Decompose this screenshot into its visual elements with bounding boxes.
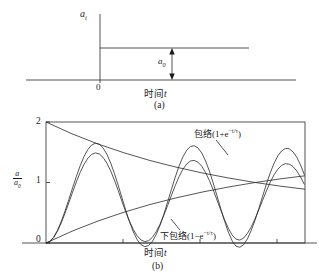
panel-b-curves xyxy=(46,122,305,247)
panel-b-ytick-label-1: 1 xyxy=(36,176,41,186)
panel-a-amplitude-label: a0 xyxy=(158,57,166,68)
upper-envelope-annotation: 包络(1+e−t/τ) xyxy=(194,128,241,139)
panel-a-origin-tick-label: 0 xyxy=(96,83,101,92)
lower-envelope-leader-line xyxy=(171,219,180,230)
panel-a-x-axis-label: 时间t xyxy=(144,90,167,100)
panel-b-group xyxy=(22,122,317,243)
panel-a-arrow-head-up xyxy=(169,48,174,55)
figure-root: ai 0 a0 时间t (a) a a0 2 1 0 包络(1+e−t/τ) 下… xyxy=(0,0,319,278)
panel-a-caption: (a) xyxy=(154,101,165,111)
panel-a-arrow-head-down xyxy=(169,74,174,81)
upper-envelope-leader-line xyxy=(216,140,228,155)
panel-b-x-axis-label: 时间t xyxy=(144,249,167,259)
panel-b-caption: (b) xyxy=(152,262,163,272)
panel-b-y-axis-label: a a0 xyxy=(13,170,22,190)
panel-a-group xyxy=(26,14,296,83)
panel-b-ytick-label-2: 2 xyxy=(36,117,41,127)
panel-a-y-axis-label: ai xyxy=(80,9,87,22)
panel-b-ytick-label-0: 0 xyxy=(36,235,41,245)
lower-envelope-annotation: 下包络(1−e−t/τ) xyxy=(160,230,216,241)
